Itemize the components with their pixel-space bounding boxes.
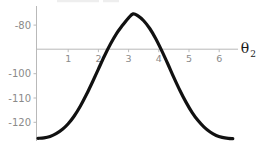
chart-svg: -80 -100 -110 -120 1 2 3 4 5 6 θ 2: [0, 0, 267, 147]
chart-container: -80 -100 -110 -120 1 2 3 4 5 6 θ 2: [0, 0, 267, 147]
x-tick-label-3: 4: [156, 53, 162, 64]
y-tick-label-3: -120: [8, 117, 31, 128]
x-axis-title-subscript: 2: [250, 49, 256, 59]
x-tick-label-4: 5: [186, 53, 192, 64]
y-tick-label-0: -80: [15, 20, 31, 31]
chart-background: [0, 0, 267, 147]
y-tick-label-1: -100: [8, 68, 31, 79]
y-tick-label-2: -110: [8, 93, 31, 104]
clipped-title-remnant: [57, 0, 119, 2]
x-axis-title-symbol: θ: [241, 40, 249, 56]
x-tick-label-5: 6: [216, 53, 222, 64]
x-tick-label-2: 3: [126, 53, 132, 64]
x-tick-label-0: 1: [65, 53, 71, 64]
